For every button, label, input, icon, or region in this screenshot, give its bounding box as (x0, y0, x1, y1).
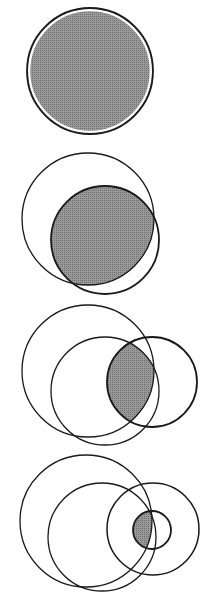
set-intersection-diagram (0, 0, 211, 604)
panel-1 (0, 0, 211, 604)
circle-c (107, 483, 199, 575)
circle-a (20, 455, 152, 587)
